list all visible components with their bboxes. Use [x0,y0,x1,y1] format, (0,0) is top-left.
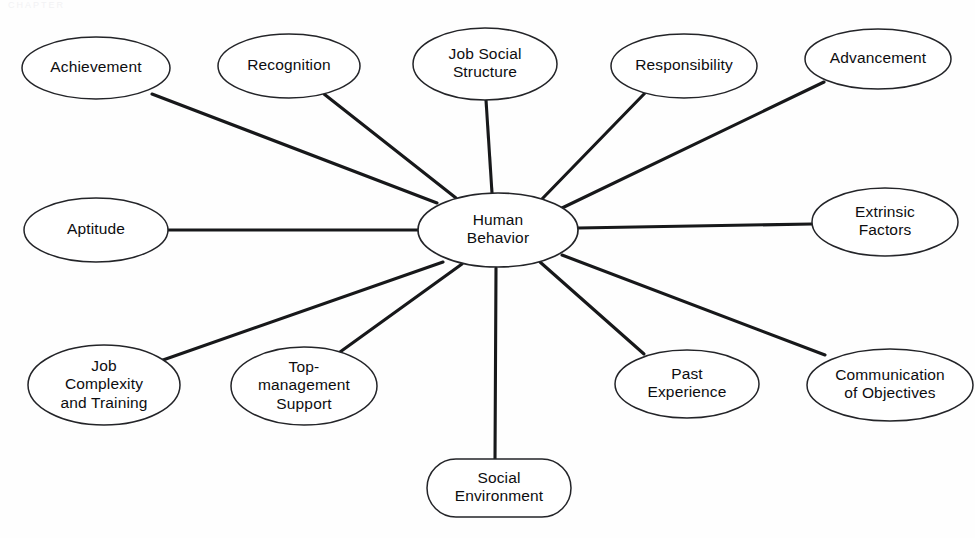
edge-job-complexity-and-training-to-center [163,262,443,360]
node-label: Advancement [830,49,927,66]
edge-recognition-to-center [324,94,456,198]
edge-past-experience-to-center [540,262,644,354]
edge-social-environment-to-center [495,268,496,459]
edge-responsibility-to-center [542,93,645,199]
node-label: Recognition [247,56,331,73]
node-aptitude[interactable]: Aptitude [24,198,168,262]
node-label: Job SocialStructure [448,45,521,81]
diagram-canvas: CHAPTER AchievementRecognitionJob Social… [0,0,975,538]
node-advancement[interactable]: Advancement [805,29,951,89]
human-behavior-radial-diagram: AchievementRecognitionJob SocialStructur… [0,0,975,538]
node-job-social-structure[interactable]: Job SocialStructure [413,28,557,100]
node-extrinsic-factors[interactable]: ExtrinsicFactors [812,188,958,256]
node-label: Achievement [50,58,142,75]
edge-job-social-structure-to-center [486,100,492,193]
node-social-environment[interactable]: SocialEnvironment [427,459,571,517]
node-responsibility[interactable]: Responsibility [611,34,757,98]
node-job-complexity-and-training[interactable]: JobComplexityand Training [28,345,180,425]
edge-advancement-to-center [562,82,824,208]
node-label: HumanBehavior [467,211,529,247]
node-top-management-support[interactable]: Top-managementSupport [231,347,377,425]
edge-communication-of-objectives-to-center [562,255,825,355]
node-communication-of-objectives[interactable]: Communicationof Objectives [807,349,973,421]
node-achievement[interactable]: Achievement [22,37,170,99]
node-label: Aptitude [67,220,125,237]
node-human-behavior[interactable]: HumanBehavior [418,193,578,267]
node-label: ExtrinsicFactors [855,203,915,239]
node-past-experience[interactable]: PastExperience [615,350,759,418]
node-label: Communicationof Objectives [835,366,945,402]
node-label: Responsibility [635,56,733,73]
edge-extrinsic-factors-to-center [578,224,812,228]
node-recognition[interactable]: Recognition [218,34,360,98]
